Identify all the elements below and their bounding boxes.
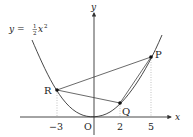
equation-frac-num: 1 (33, 23, 37, 29)
segment-QP (120, 57, 151, 103)
equation-exp: 2 (44, 23, 48, 29)
point-P (149, 55, 153, 59)
segment-RQ (57, 90, 120, 103)
equation-frac-den: 2 (33, 30, 37, 36)
equation-prefix: y = (8, 24, 25, 34)
parabola-diagram: R Q P x y O −3 2 5 y = 1 2 x 2 (0, 0, 193, 137)
segment-RP (57, 57, 151, 90)
label-Q: Q (122, 106, 130, 117)
point-Q (118, 101, 122, 105)
label-R: R (44, 85, 52, 96)
tick-label-2: 2 (117, 121, 123, 132)
tick-label-5: 5 (148, 121, 154, 132)
origin-label: O (84, 121, 92, 132)
point-R (55, 88, 59, 92)
curve-equation-label: y = 1 2 x 2 (8, 23, 48, 36)
x-axis-label: x (175, 112, 180, 122)
label-P: P (155, 49, 162, 60)
y-axis-label: y (90, 2, 97, 12)
equation-var: x (38, 24, 43, 34)
tick-label-neg3: −3 (49, 121, 63, 132)
